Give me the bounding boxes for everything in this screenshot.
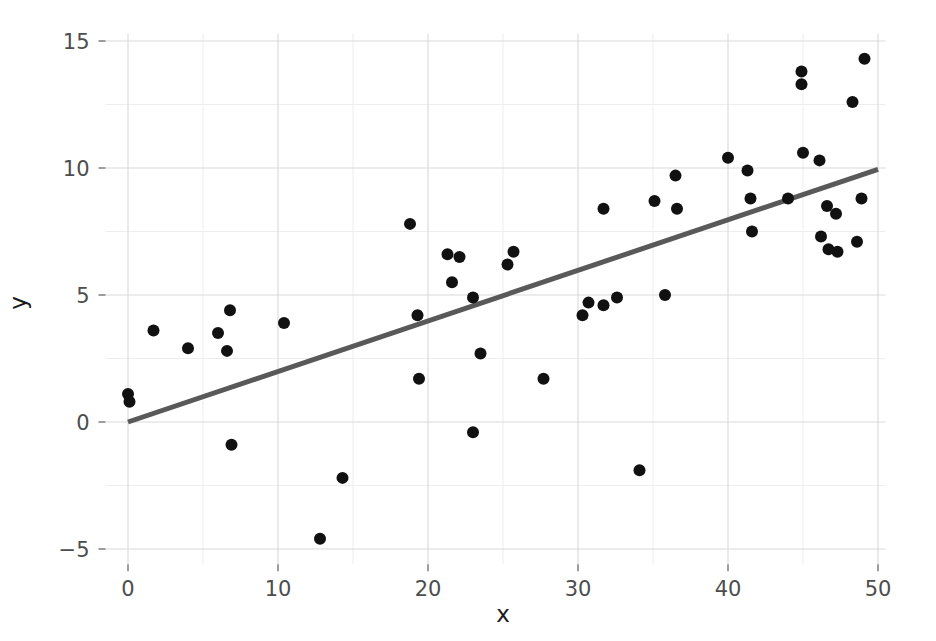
data-point (832, 246, 844, 258)
y-tick-label: 5 (76, 284, 89, 308)
data-point (278, 317, 290, 329)
data-point (583, 297, 595, 309)
x-tick-label: 30 (565, 577, 592, 601)
y-tick-label: 15 (63, 30, 90, 54)
data-point (611, 292, 623, 304)
data-point (467, 426, 479, 438)
data-point (797, 147, 809, 159)
data-point (577, 309, 589, 321)
data-point (745, 192, 757, 204)
x-tick-label: 40 (715, 577, 742, 601)
data-point (413, 373, 425, 385)
data-point (182, 342, 194, 354)
data-point (454, 251, 466, 263)
data-point (746, 226, 758, 238)
data-point (782, 192, 794, 204)
figure-background (0, 0, 936, 641)
data-point (314, 533, 326, 545)
data-point (814, 154, 826, 166)
data-point (221, 345, 233, 357)
data-point (722, 152, 734, 164)
data-point (649, 195, 661, 207)
x-tick-label: 10 (265, 577, 292, 601)
y-tick-label: 10 (63, 157, 90, 181)
data-point (659, 289, 671, 301)
data-point (226, 439, 238, 451)
data-point (830, 208, 842, 220)
data-point (502, 259, 514, 271)
data-point (598, 203, 610, 215)
data-point (224, 304, 236, 316)
data-point (796, 65, 808, 77)
data-point (442, 248, 454, 260)
data-point (148, 325, 160, 337)
data-point (815, 231, 827, 243)
data-point (856, 192, 868, 204)
data-point (337, 472, 349, 484)
data-point (670, 170, 682, 182)
y-tick-label: 0 (76, 411, 89, 435)
x-tick-label: 20 (415, 577, 442, 601)
data-point (847, 96, 859, 108)
scatter-plot-figure: 01020304050 −5051015 x y (0, 0, 936, 641)
x-tick-label: 50 (865, 577, 892, 601)
y-tick-label: −5 (59, 538, 90, 562)
data-point (467, 292, 479, 304)
y-axis-title: y (5, 296, 31, 310)
scatter-plot-page: 01020304050 −5051015 x y (0, 0, 936, 641)
data-point (508, 246, 520, 258)
data-point (742, 165, 754, 177)
data-point (851, 236, 863, 248)
data-point (538, 373, 550, 385)
data-point (412, 309, 424, 321)
x-tick-label: 0 (121, 577, 134, 601)
x-axis-title: x (496, 601, 510, 627)
data-point (446, 276, 458, 288)
data-point (212, 327, 224, 339)
data-point (634, 464, 646, 476)
data-point (475, 347, 487, 359)
data-point (796, 78, 808, 90)
data-point (598, 299, 610, 311)
data-point (859, 53, 871, 65)
data-point (124, 396, 136, 408)
data-point (671, 203, 683, 215)
data-point (404, 218, 416, 230)
